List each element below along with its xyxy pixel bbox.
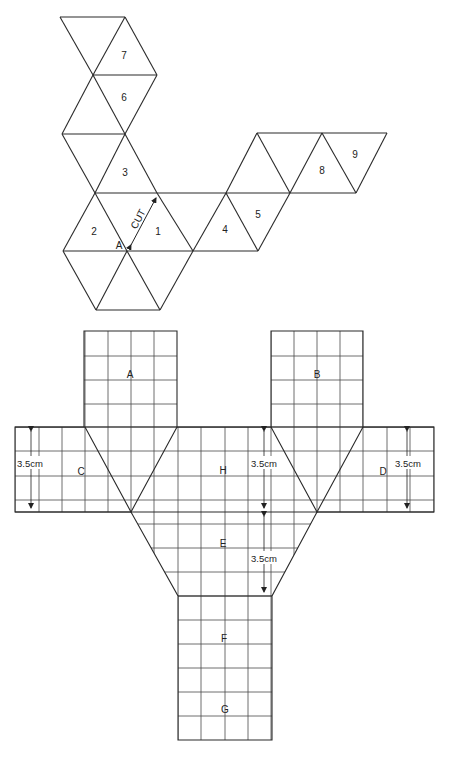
edge (125, 134, 157, 193)
triangle-label-4: 4 (222, 224, 228, 235)
panel-label-d: D (379, 466, 386, 477)
edge (125, 17, 157, 75)
triangle-label-5: 5 (255, 209, 261, 220)
triangle-label-9: 9 (352, 149, 358, 160)
edge (63, 251, 96, 310)
panel-label-h: H (219, 465, 226, 476)
edge (60, 17, 93, 75)
triangle-label-1: 1 (155, 226, 161, 237)
dimension-label-left: 3.5cm (17, 458, 43, 469)
edge (193, 193, 226, 251)
dimension-label-trapezoid: 3.5cm (251, 553, 277, 564)
edge (125, 75, 157, 134)
edge (356, 133, 387, 193)
grid-net: 3.5cm 3.5cm 3.5cm 3.5cm A B C H D E F G (0, 320, 450, 750)
edge (160, 251, 193, 310)
triangle-net: 7 6 3 2 1 4 5 8 9 CUT A (60, 17, 387, 310)
edge (322, 133, 356, 193)
edge (93, 75, 125, 134)
panel-label-a: A (127, 369, 134, 380)
grid-lines (0, 320, 450, 750)
edge (95, 134, 125, 193)
triangle-label-7: 7 (121, 50, 127, 61)
edge (290, 133, 322, 193)
panel-label-b: B (314, 369, 321, 380)
edge (63, 193, 95, 251)
edge (96, 251, 127, 310)
triangle-label-6: 6 (121, 92, 127, 103)
panel-label-g: G (221, 704, 229, 715)
dimension-label-center: 3.5cm (251, 458, 277, 469)
dimension-label-right: 3.5cm (395, 458, 421, 469)
triangle-label-3: 3 (122, 167, 128, 178)
vertex-label-a: A (116, 240, 123, 251)
edge (157, 193, 193, 251)
edge (62, 134, 95, 193)
panel-label-f: F (221, 633, 227, 644)
edge (257, 133, 290, 193)
edge (258, 193, 290, 251)
triangle-label-2: 2 (91, 226, 97, 237)
triangle-label-8: 8 (319, 165, 325, 176)
diagram-canvas: 7 6 3 2 1 4 5 8 9 CUT A (0, 0, 450, 757)
edge (226, 193, 258, 251)
panel-label-e: E (220, 538, 227, 549)
edge (127, 251, 160, 310)
edge (93, 17, 125, 75)
panel-label-c: C (77, 466, 84, 477)
net-outline (15, 331, 434, 740)
edge (62, 75, 93, 134)
edge (226, 133, 257, 193)
